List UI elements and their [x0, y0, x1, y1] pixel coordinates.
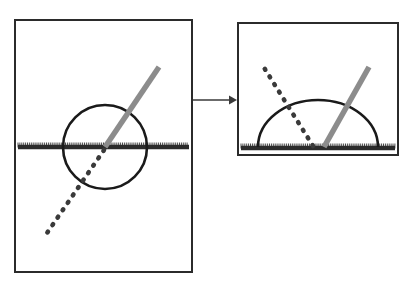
left-dotted-ray	[47, 150, 104, 233]
right-panel-frame	[238, 23, 398, 155]
left-panel	[15, 20, 192, 272]
right-gray-ray	[324, 67, 369, 147]
figure-canvas	[0, 0, 420, 286]
upper-semicircle	[258, 100, 378, 147]
arrow-head	[229, 96, 237, 105]
figure-root	[0, 0, 420, 286]
right-panel	[238, 23, 398, 155]
right-dotted-ray	[263, 66, 313, 146]
transformation-arrow	[193, 96, 237, 105]
